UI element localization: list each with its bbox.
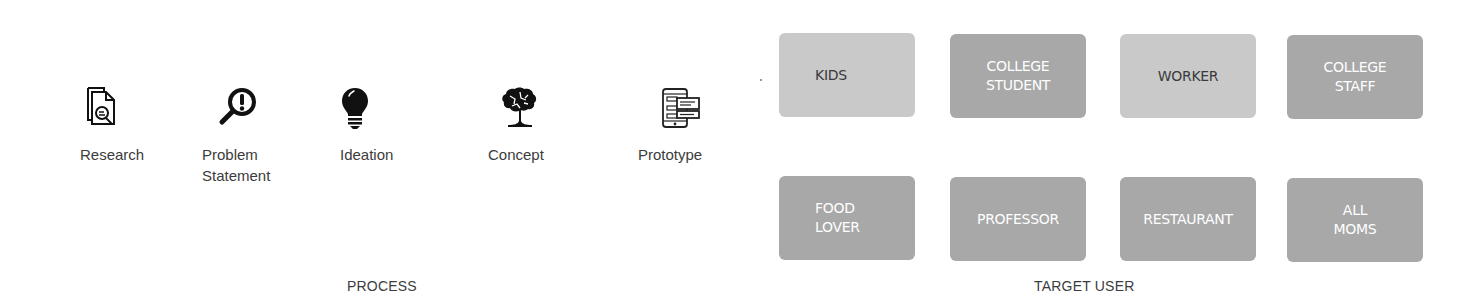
user-box-kids: KIDS [779,33,915,117]
brain-tree-icon [500,86,544,130]
process-step-concept: Concept [488,86,598,165]
user-box-food-lover: FOOD LOVER [779,176,915,260]
user-box-worker: WORKER [1120,34,1256,118]
process-step-prototype: Prototype [638,86,748,165]
decorative-dot [760,79,762,81]
step-label: Problem Statement [202,146,270,184]
user-box-all-moms: ALL MOMS [1287,178,1423,262]
step-label: Concept [488,146,544,163]
process-step-research: Research [80,86,190,165]
step-label: Prototype [638,146,702,163]
mobile-wireframe-icon [659,86,703,130]
process-step-problem-statement: Problem Statement [202,86,312,186]
user-box-college-staff: COLLEGE STAFF [1287,35,1423,119]
user-box-professor: PROFESSOR [950,177,1086,261]
process-title: PROCESS [347,278,417,294]
lightbulb-icon [340,86,384,130]
target-user-title: TARGET USER [1034,278,1134,294]
step-label: Research [80,146,144,163]
magnifier-exclamation-icon [216,86,260,130]
user-box-restaurant: RESTAURANT [1120,177,1256,261]
step-label: Ideation [340,146,393,163]
document-search-icon [84,86,128,130]
process-step-ideation: Ideation [340,86,450,165]
user-box-college-student: COLLEGE STUDENT [950,34,1086,118]
